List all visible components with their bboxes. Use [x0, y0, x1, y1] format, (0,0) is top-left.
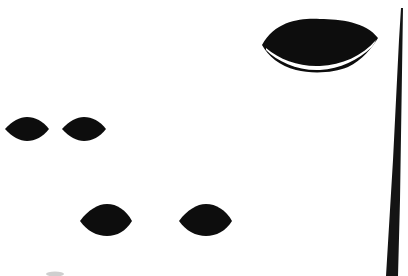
scan-image-surface: [0, 0, 408, 276]
scan-canvas: High-contrast black-on-white scan fragme…: [0, 0, 408, 276]
